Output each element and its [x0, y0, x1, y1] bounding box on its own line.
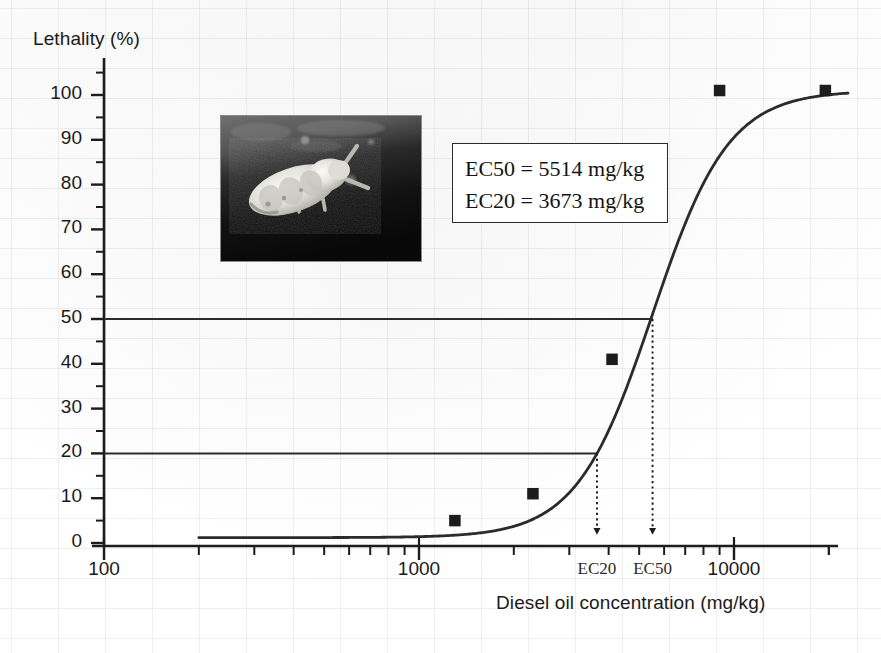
- ec50-axis-label: EC50: [633, 559, 672, 579]
- y-tick-label: 40: [30, 351, 82, 373]
- x-axis-ticks: [104, 537, 829, 560]
- y-tick-label: 80: [30, 172, 82, 194]
- reference-lines: [104, 319, 653, 453]
- data-point-marker: [527, 488, 539, 500]
- x-tick-label: 100: [88, 558, 120, 580]
- x-tick-label: 10000: [708, 558, 761, 580]
- y-tick-label: 90: [30, 127, 82, 149]
- y-tick-label: 30: [30, 396, 82, 418]
- y-axis-ticks: [91, 73, 104, 543]
- ec20-value-line: EC20 = 3673 mg/kg: [465, 185, 667, 217]
- y-tick-label: 70: [30, 216, 82, 238]
- plot-canvas: [0, 0, 881, 653]
- data-point-marker: [606, 354, 618, 366]
- y-tick-label: 0: [30, 530, 82, 552]
- ec20-axis-label: EC20: [578, 559, 617, 579]
- y-tick-label: 20: [30, 440, 82, 462]
- data-point-marker: [449, 515, 461, 527]
- axes: [92, 58, 838, 546]
- springtail-larva-photo: [220, 115, 422, 262]
- y-tick-label: 10: [30, 485, 82, 507]
- y-tick-label: 100: [30, 82, 82, 104]
- ec-drop-arrows: [597, 319, 653, 531]
- x-axis-label: Diesel oil concentration (mg/kg): [496, 592, 765, 614]
- y-axis-label: Lethality (%): [33, 28, 140, 50]
- data-point-marker: [714, 85, 726, 97]
- dose-response-chart: Lethality (%) Diesel oil concentration (…: [0, 0, 881, 653]
- ec-values-annotation-box: EC50 = 5514 mg/kg EC20 = 3673 mg/kg: [452, 143, 668, 223]
- x-tick-label: 1000: [398, 558, 440, 580]
- y-tick-label: 60: [30, 261, 82, 283]
- data-point-marker: [820, 85, 832, 97]
- y-tick-label: 50: [30, 306, 82, 328]
- ec50-value-line: EC50 = 5514 mg/kg: [465, 153, 667, 185]
